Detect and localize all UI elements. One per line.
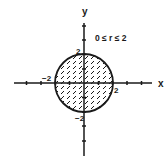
tick-label-x-pos: 2: [114, 86, 119, 95]
condition-label: 0 ≤ r ≤ 2: [95, 33, 127, 43]
polar-region-diagram: y x 0 ≤ r ≤ 2 2 −2 2 −2: [0, 0, 166, 161]
y-axis-label: y: [82, 6, 88, 17]
x-axis-label: x: [158, 78, 164, 89]
tick-label-y-pos: 2: [76, 47, 81, 56]
tick-label-y-neg: −2: [75, 114, 85, 123]
tick-label-x-neg: −2: [42, 74, 52, 83]
